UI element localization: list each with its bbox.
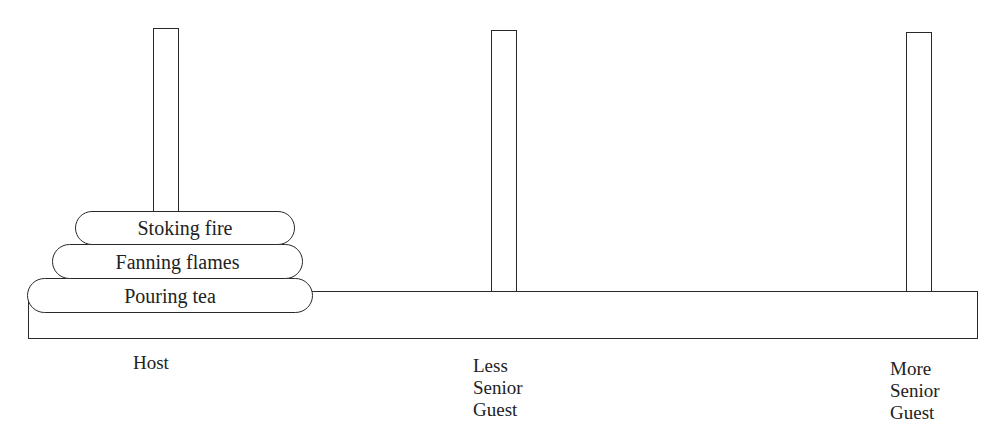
label-host: Host (133, 352, 169, 374)
label-more-senior-guest: More Senior Guest (890, 358, 940, 424)
disk-label: Fanning flames (116, 252, 240, 272)
disk-stoking-fire: Stoking fire (75, 211, 295, 245)
peg-less-senior-guest (491, 30, 517, 292)
label-line: Less (473, 355, 523, 377)
label-line: More (890, 358, 940, 380)
label-line: Guest (473, 399, 523, 421)
label-less-senior-guest: Less Senior Guest (473, 355, 523, 421)
disk-label: Stoking fire (138, 218, 233, 238)
disk-label: Pouring tea (124, 286, 216, 306)
peg-more-senior-guest (906, 32, 932, 292)
label-line: Senior (473, 377, 523, 399)
disk-fanning-flames: Fanning flames (52, 244, 303, 279)
label-line: Senior (890, 380, 940, 402)
disk-pouring-tea: Pouring tea (27, 278, 313, 313)
peg-host (153, 28, 179, 213)
label-line: Guest (890, 402, 940, 424)
